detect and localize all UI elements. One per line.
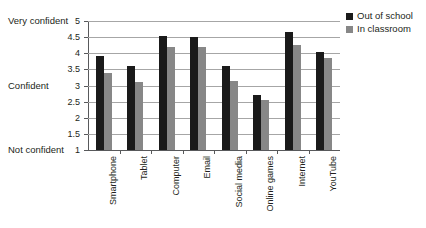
- bar-group: [246, 21, 278, 150]
- y-axis-tick: [84, 53, 88, 54]
- x-axis-tick: [309, 150, 310, 154]
- y-axis-labels: 54.543.532.521.51: [0, 0, 84, 228]
- legend-label-out-of-school: Out of school: [357, 10, 413, 22]
- bar-in-classroom: [135, 82, 143, 150]
- bar-in-classroom: [198, 47, 206, 150]
- bar-group: [120, 21, 152, 150]
- bar-group: [151, 21, 183, 150]
- y-axis-tick: [84, 118, 88, 119]
- bar-out-of-school: [222, 66, 230, 150]
- x-axis-tick: [151, 150, 152, 154]
- x-axis-category-label: Computer: [171, 156, 181, 196]
- bar-in-classroom: [324, 58, 332, 150]
- y-axis-tick: [84, 102, 88, 103]
- chart-legend: Out of school In classroom: [346, 10, 413, 36]
- legend-item-out-of-school: Out of school: [346, 10, 413, 22]
- y-axis-tick: [84, 69, 88, 70]
- bar-group: [214, 21, 246, 150]
- x-axis-tick: [277, 150, 278, 154]
- bar-out-of-school: [190, 37, 198, 150]
- x-axis-category-label: Smartphone: [108, 156, 118, 205]
- legend-swatch-in-classroom: [346, 26, 353, 33]
- x-axis-category-label: Online games: [265, 156, 275, 212]
- bar-out-of-school: [127, 66, 135, 150]
- y-axis-tick: [84, 37, 88, 38]
- y-axis-tick-label: 1.5: [67, 130, 80, 139]
- bar-group: [277, 21, 309, 150]
- y-axis-anchor-label: Confident: [8, 81, 49, 91]
- bar-out-of-school: [159, 36, 167, 150]
- x-axis-category-label: Social media: [234, 156, 244, 208]
- bar-out-of-school: [253, 95, 261, 150]
- bar-in-classroom: [261, 100, 269, 150]
- y-axis-tick: [84, 134, 88, 135]
- y-axis-tick: [84, 150, 88, 151]
- y-axis-anchor-label: Very confident: [8, 16, 68, 26]
- bar-out-of-school: [285, 32, 293, 150]
- legend-item-in-classroom: In classroom: [346, 23, 413, 35]
- y-axis-tick-label: 3: [75, 82, 80, 91]
- x-axis-category-label: Internet: [297, 156, 307, 187]
- x-axis-category-label: Email: [202, 156, 212, 179]
- bar-in-classroom: [104, 73, 112, 150]
- legend-swatch-out-of-school: [346, 13, 353, 20]
- x-axis-tick: [214, 150, 215, 154]
- bar-in-classroom: [167, 47, 175, 150]
- y-axis-tick-label: 2: [75, 114, 80, 123]
- bar-in-classroom: [293, 45, 301, 150]
- x-axis-tick: [183, 150, 184, 154]
- y-axis-tick-label: 2.5: [67, 98, 80, 107]
- x-axis-category-label: Tablet: [139, 156, 149, 180]
- y-axis-tick: [84, 21, 88, 22]
- bar-out-of-school: [316, 52, 324, 150]
- x-axis-tick: [246, 150, 247, 154]
- bar-group: [309, 21, 341, 150]
- y-axis-anchor-label: Not confident: [8, 145, 64, 155]
- y-axis-tick-label: 5: [75, 17, 80, 26]
- bar-group: [183, 21, 215, 150]
- y-axis-tick-label: 1: [75, 146, 80, 155]
- legend-label-in-classroom: In classroom: [357, 23, 411, 35]
- y-axis-tick: [84, 86, 88, 87]
- bar-chart: 54.543.532.521.51 Out of school In class…: [0, 0, 426, 228]
- y-axis-tick-label: 3.5: [67, 65, 80, 74]
- x-axis-tick: [120, 150, 121, 154]
- bar-in-classroom: [230, 81, 238, 150]
- bar-out-of-school: [96, 56, 104, 150]
- x-axis-category-label: YouTube: [328, 156, 338, 191]
- bar-group: [88, 21, 120, 150]
- y-axis-tick-label: 4: [75, 49, 80, 58]
- y-axis-tick-label: 4.5: [67, 33, 80, 42]
- plot-area: [88, 21, 340, 150]
